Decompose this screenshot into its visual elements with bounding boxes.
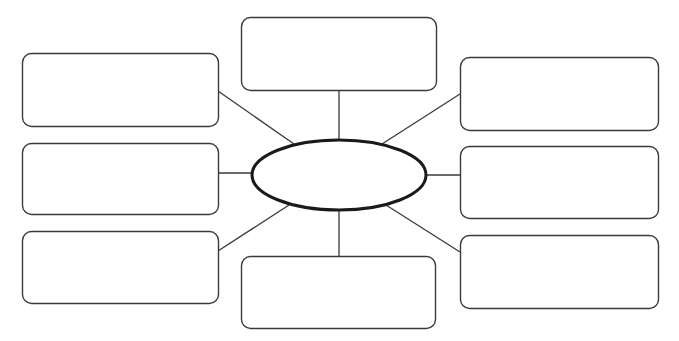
box-outline	[461, 58, 659, 131]
box-middle-left[interactable]	[23, 144, 219, 215]
spider-map-diagram	[0, 0, 679, 341]
box-outline	[23, 232, 219, 304]
box-outline	[242, 257, 436, 329]
center-ellipse-group	[252, 140, 426, 210]
connector-bottom-left	[218, 205, 289, 251]
connector-bottom-right	[386, 205, 460, 252]
box-middle-right[interactable]	[461, 147, 659, 219]
box-bottom-center[interactable]	[242, 257, 436, 329]
box-outline	[242, 18, 437, 91]
box-outline	[23, 144, 219, 215]
box-bottom-left[interactable]	[23, 232, 219, 304]
box-top-left[interactable]	[23, 54, 219, 127]
box-top-center[interactable]	[242, 18, 437, 91]
box-outline	[461, 147, 659, 219]
box-outline	[23, 54, 219, 127]
box-bottom-right[interactable]	[461, 236, 659, 309]
center-ellipse[interactable]	[252, 140, 426, 210]
connector-top-left	[218, 91, 294, 144]
connector-top-right	[382, 94, 460, 144]
box-top-right[interactable]	[461, 58, 659, 131]
box-outline	[461, 236, 659, 309]
